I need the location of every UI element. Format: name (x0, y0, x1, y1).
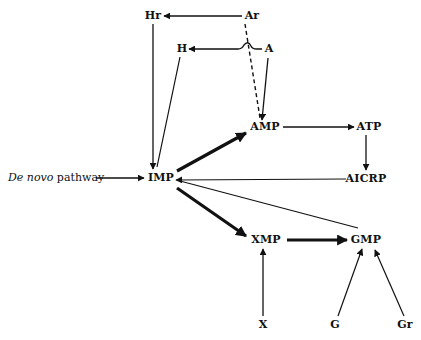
edge-ar-amp (245, 24, 260, 118)
edge-h-imp (157, 57, 180, 167)
node-imp: IMP (148, 172, 174, 184)
node-gr: Gr (397, 319, 413, 331)
de-novo-italic: De novo (8, 171, 53, 184)
node-amp: AMP (250, 121, 280, 133)
node-a: A (265, 43, 274, 55)
node-ar: Ar (245, 10, 260, 22)
edge-gmp-imp (180, 181, 358, 228)
edge-g-gmp (338, 249, 362, 316)
node-g: G (330, 319, 340, 331)
edge-imp-amp (177, 133, 246, 171)
node-xmp: XMP (251, 234, 281, 246)
node-de-novo-pathway: De novo pathway (8, 172, 104, 184)
node-hr: Hr (145, 10, 162, 22)
node-h: H (177, 43, 188, 55)
node-atp: ATP (357, 121, 382, 133)
node-gmp: GMP (351, 234, 381, 246)
pathway-edges (0, 0, 421, 340)
node-aicrp: AICRP (346, 173, 387, 185)
edge-gr-gmp (375, 250, 404, 316)
edge-a-amp (262, 58, 268, 120)
de-novo-rest: pathway (53, 171, 104, 184)
edge-aicrp-imp (176, 179, 346, 180)
node-x: X (259, 319, 268, 331)
edge-a-h (189, 43, 262, 49)
